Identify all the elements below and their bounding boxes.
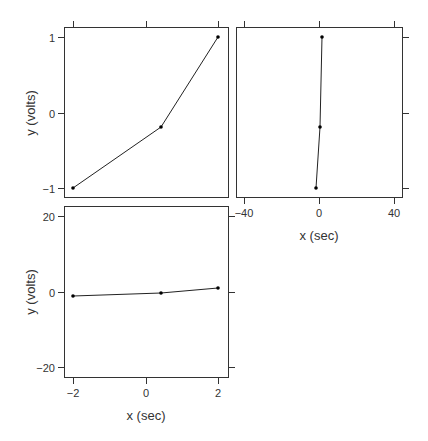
y-tick-label: −20 — [36, 362, 55, 374]
y-tick-label: 0 — [49, 287, 55, 299]
x-tick-label: 0 — [143, 387, 149, 399]
y-tick-label: 0 — [49, 108, 55, 120]
y-axis-label: y (volts) — [23, 90, 38, 136]
y-tick-label: −1 — [42, 183, 55, 195]
data-point — [71, 294, 75, 298]
data-line — [73, 37, 218, 188]
data-point — [216, 286, 220, 290]
data-line — [73, 288, 218, 296]
panel-frame — [65, 28, 229, 198]
data-point — [71, 186, 75, 190]
data-point — [320, 35, 324, 39]
x-tick-label: 2 — [215, 387, 221, 399]
panel-top-left: 1 0 −1 y (volts) — [23, 21, 229, 198]
chart-figure: 1 0 −1 y (volts) −40 0 40 x (sec) — [0, 0, 428, 441]
x-axis-label: x (sec) — [127, 408, 166, 423]
y-tick-label: 20 — [43, 211, 55, 223]
panel-frame — [65, 207, 229, 378]
y-axis-label: y (volts) — [23, 269, 38, 315]
panel-top-right: −40 0 40 x (sec) — [235, 21, 409, 243]
data-point — [159, 291, 163, 295]
x-tick-label: −40 — [235, 207, 254, 219]
x-tick-label: 0 — [316, 207, 322, 219]
panel-frame — [237, 28, 403, 198]
x-axis-label: x (sec) — [300, 228, 339, 243]
data-point — [159, 125, 163, 129]
panel-bottom-left: 20 0 −20 −2 0 2 y (volts) x (sec) — [23, 207, 235, 424]
x-tick-label: −2 — [67, 387, 80, 399]
y-tick-label: 1 — [49, 32, 55, 44]
data-point — [216, 35, 220, 39]
x-tick-label: 40 — [388, 207, 400, 219]
data-point — [318, 125, 322, 129]
data-point — [314, 186, 318, 190]
data-line — [316, 37, 322, 188]
